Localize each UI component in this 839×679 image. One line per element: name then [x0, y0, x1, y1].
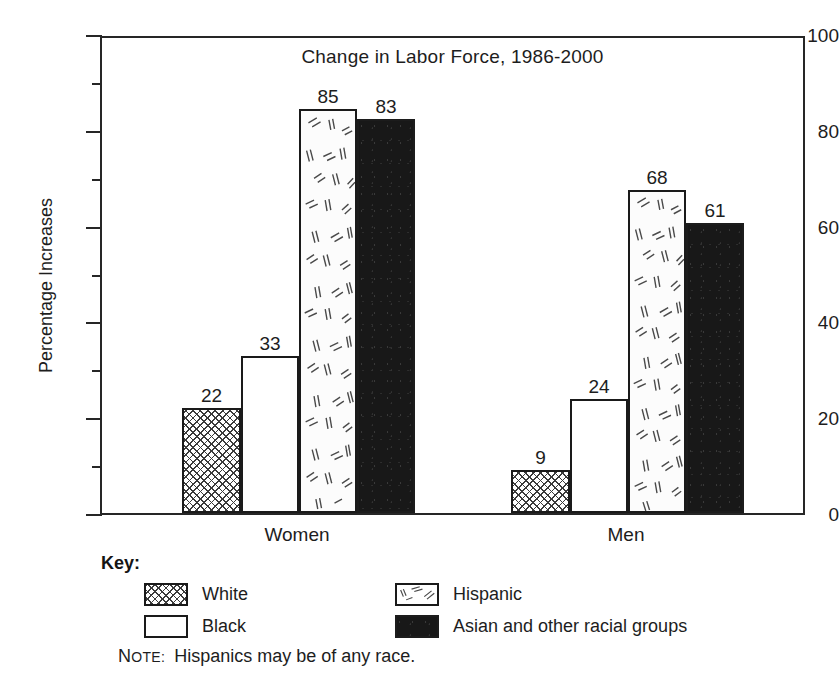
- bar-value-label: 61: [704, 200, 725, 222]
- chart-title: Change in Labor Force, 1986-2000: [100, 46, 805, 68]
- y-axis-title: Percentage Increases: [36, 136, 57, 436]
- bar-value-label: 85: [317, 86, 338, 108]
- note-text: Hispanics may be of any race.: [174, 646, 415, 666]
- bar-women-hispanic: 85: [299, 109, 357, 513]
- crosshatch-pattern: [184, 410, 239, 511]
- swatch-solid-icon: [395, 615, 439, 638]
- note-line: NOTE:Hispanics may be of any race.: [118, 646, 415, 667]
- swatch-dashes-icon: [395, 583, 439, 606]
- solid-pattern: [397, 617, 437, 636]
- bar-chart-figure: Percentage Increases 100 80 60 40 20 0 2…: [0, 0, 839, 679]
- legend-label: Asian and other racial groups: [453, 616, 687, 637]
- solid-pattern: [359, 121, 413, 511]
- bar-men-hispanic: 68: [628, 190, 686, 513]
- bar-women-white: 22: [182, 408, 241, 513]
- bar-value-label: 9: [535, 447, 546, 469]
- dashes-pattern: [301, 111, 355, 511]
- plot-area: 22 33 85 83 9 24: [100, 36, 805, 515]
- crosshatch-pattern: [513, 472, 568, 511]
- bar-value-label: 83: [375, 96, 396, 118]
- bar-men-white: 9: [511, 470, 570, 513]
- bar-women-black: 33: [241, 356, 299, 513]
- legend-item-black: Black: [144, 615, 246, 638]
- bar-men-asian: 61: [686, 223, 744, 513]
- legend-label: Black: [202, 616, 246, 637]
- dashes-pattern: [397, 585, 437, 604]
- legend-label: White: [202, 584, 248, 605]
- legend-item-hispanic: Hispanic: [395, 583, 522, 606]
- note-prefix-cap: N: [118, 646, 131, 666]
- dashes-pattern: [630, 192, 684, 511]
- bar-men-black: 24: [570, 399, 628, 513]
- solid-pattern: [688, 225, 742, 511]
- note-prefix: NOTE:: [118, 649, 165, 665]
- swatch-empty-icon: [144, 615, 188, 638]
- bar-value-label: 24: [588, 376, 609, 398]
- note-prefix-rest: OTE:: [131, 649, 165, 665]
- legend-item-white: White: [144, 583, 248, 606]
- bar-value-label: 33: [259, 333, 280, 355]
- crosshatch-pattern: [146, 585, 186, 604]
- x-axis-label-women: Women: [264, 524, 329, 546]
- swatch-crosshatch-icon: [144, 583, 188, 606]
- x-axis-label-men: Men: [608, 524, 645, 546]
- bar-women-asian: 83: [357, 119, 415, 513]
- bar-value-label: 22: [201, 385, 222, 407]
- legend-item-asian: Asian and other racial groups: [395, 615, 687, 638]
- legend-title: Key:: [101, 553, 805, 574]
- legend-label: Hispanic: [453, 584, 522, 605]
- legend: Key: White Black: [100, 553, 805, 574]
- bar-value-label: 68: [646, 167, 667, 189]
